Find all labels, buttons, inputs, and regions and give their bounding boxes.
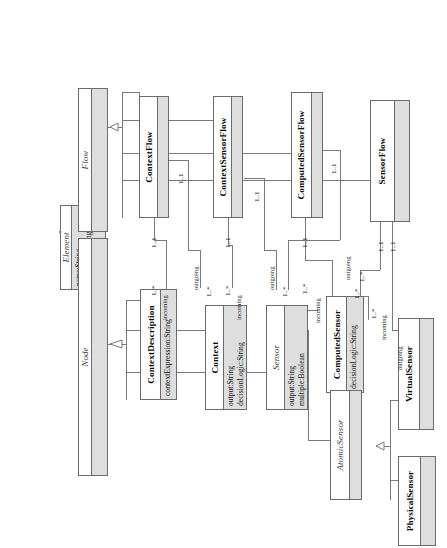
multiplicity-label: 1..1 bbox=[224, 238, 232, 249]
multiplicity-label: 1..* bbox=[370, 309, 378, 320]
class-attributes-computed-sensor-flow bbox=[312, 93, 322, 217]
class-name-virtual-sensor: VirtualSensor bbox=[404, 346, 414, 402]
attribute-decision-logic: decisionLogic:String bbox=[349, 300, 359, 389]
class-box-context-description[interactable]: ContextDescription contextExpression:Str… bbox=[140, 289, 177, 400]
role-label-incoming: incoming bbox=[161, 295, 168, 320]
multiplicity-label: 1..1 bbox=[253, 192, 261, 203]
class-box-flow[interactable]: Flow bbox=[78, 88, 108, 232]
attribute-output: output:String bbox=[287, 309, 297, 406]
multiplicity-label: 1..1 bbox=[301, 238, 309, 249]
class-header-context-flow: ContextFlow bbox=[140, 97, 158, 217]
class-name-context-description: ContextDescription bbox=[146, 305, 156, 383]
class-header-node: Node bbox=[79, 239, 92, 475]
class-box-context[interactable]: Context output:String decisionLogic:Stri… bbox=[205, 305, 247, 410]
class-box-virtual-sensor[interactable]: VirtualSensor bbox=[398, 318, 434, 430]
class-box-atomic-sensor[interactable]: AtomicSensor bbox=[330, 390, 362, 500]
class-name-context: Context bbox=[210, 342, 220, 374]
class-attributes-context-flow bbox=[158, 97, 168, 217]
class-attributes-sensor: output:String multiple:Boolean bbox=[285, 306, 307, 409]
class-name-sensor: Sensor bbox=[271, 345, 281, 370]
class-header-virtual-sensor: VirtualSensor bbox=[399, 319, 420, 429]
class-header-sensor-flow: SensorFlow bbox=[371, 101, 395, 221]
attribute-decision-logic: decisionLogic:String bbox=[236, 309, 246, 406]
class-attributes-flow bbox=[92, 89, 107, 231]
role-label-incoming: incoming bbox=[314, 298, 321, 323]
class-header-sensor: Sensor bbox=[267, 306, 285, 409]
multiplicity-label: 1..1 bbox=[330, 164, 338, 175]
multiplicity-label: 1..* bbox=[150, 286, 158, 297]
class-name-sensor-flow: SensorFlow bbox=[377, 138, 387, 185]
class-name-computed-sensor: ComputedSensor bbox=[332, 310, 342, 379]
class-box-context-flow[interactable]: ContextFlow bbox=[139, 96, 169, 218]
multiplicity-label: 1..* bbox=[224, 286, 232, 297]
role-label-outgoing: outgoing bbox=[268, 267, 275, 290]
multiplicity-label: 1..* bbox=[281, 287, 289, 298]
class-box-sensor-flow[interactable]: SensorFlow bbox=[370, 100, 410, 222]
multiplicity-label: 1..1 bbox=[377, 242, 385, 253]
class-attributes-virtual-sensor bbox=[420, 319, 433, 429]
class-header-element: Element bbox=[61, 206, 72, 289]
class-attributes-computed-sensor: decisionLogic:String bbox=[347, 297, 363, 392]
class-box-context-sensor-flow[interactable]: ContextSensorFlow bbox=[213, 96, 243, 218]
class-box-computed-sensor[interactable]: ComputedSensor decisionLogic:String bbox=[326, 296, 364, 393]
class-attributes-context-sensor-flow bbox=[232, 97, 242, 217]
class-header-context: Context bbox=[206, 306, 224, 409]
multiplicity-label: 1..1 bbox=[177, 174, 185, 185]
generalization-arrow-node bbox=[110, 340, 122, 348]
class-name-computed-sensor-flow: ComputedSensorFlow bbox=[296, 110, 306, 199]
class-name-physical-sensor: PhysicalSensor bbox=[405, 471, 415, 532]
class-name-context-flow: ContextFlow bbox=[144, 131, 154, 183]
class-header-context-sensor-flow: ContextSensorFlow bbox=[214, 97, 232, 217]
class-box-computed-sensor-flow[interactable]: ComputedSensorFlow bbox=[291, 92, 323, 218]
class-header-computed-sensor-flow: ComputedSensorFlow bbox=[292, 93, 312, 217]
attribute-multiple: multiple:Boolean bbox=[297, 309, 307, 406]
multiplicity-label: 1..* bbox=[301, 284, 309, 295]
class-header-flow: Flow bbox=[79, 89, 92, 231]
generalization-arrow-atomic bbox=[376, 442, 384, 450]
class-header-computed-sensor: ComputedSensor bbox=[327, 297, 347, 392]
class-attributes-atomic-sensor bbox=[350, 391, 361, 499]
role-label-outgoing: outgoing bbox=[192, 267, 199, 290]
class-name-node: Node bbox=[80, 347, 90, 366]
class-name-flow: Flow bbox=[80, 151, 90, 170]
generalization-arrow-flow bbox=[110, 123, 118, 131]
multiplicity-label: 1..1 bbox=[389, 242, 397, 253]
role-label-outgoing: outgoing bbox=[344, 257, 351, 280]
multiplicity-label: 1..* bbox=[358, 272, 366, 283]
class-attributes-sensor-flow bbox=[395, 101, 409, 221]
role-label-incoming: incoming bbox=[235, 295, 242, 320]
class-box-node[interactable]: Node bbox=[78, 238, 108, 476]
role-label-incoming: incoming bbox=[380, 315, 387, 340]
class-box-physical-sensor[interactable]: PhysicalSensor bbox=[398, 456, 436, 546]
class-header-physical-sensor: PhysicalSensor bbox=[399, 457, 421, 545]
class-header-context-description: ContextDescription bbox=[141, 290, 161, 399]
class-box-sensor[interactable]: Sensor output:String multiple:Boolean bbox=[266, 305, 308, 410]
attribute-output: output:String bbox=[226, 309, 236, 406]
uml-class-diagram-canvas: Element name:String description:String F… bbox=[0, 0, 447, 548]
role-label-outgoing: outgoing bbox=[396, 347, 403, 370]
class-attributes-physical-sensor bbox=[421, 457, 435, 545]
multiplicity-label: 1..* bbox=[205, 287, 213, 298]
class-name-context-sensor-flow: ContextSensorFlow bbox=[218, 118, 228, 197]
multiplicity-label: 1..1 bbox=[150, 238, 158, 249]
class-name-atomic-sensor: AtomicSensor bbox=[335, 419, 345, 470]
class-header-atomic-sensor: AtomicSensor bbox=[331, 391, 350, 499]
class-attributes-context: output:String decisionLogic:String bbox=[224, 306, 246, 409]
class-name-element: Element bbox=[61, 232, 71, 262]
multiplicity-label: 1..* bbox=[353, 289, 361, 300]
class-attributes-node bbox=[92, 239, 107, 475]
